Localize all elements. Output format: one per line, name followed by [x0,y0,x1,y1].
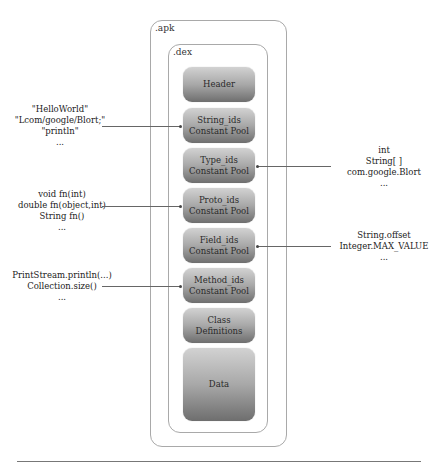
strings-arrowhead-icon [179,125,182,128]
block-label: Class [196,315,243,326]
block-sublabel: Constant Pool [189,206,249,217]
block-sublabel: Constant Pool [189,286,249,297]
field-ids-block: Field_idsConstant Pool [183,228,255,263]
method-ids-block: Method_idsConstant Pool [183,268,255,303]
annotation-line: ... [12,292,112,303]
block-sublabel: Definitions [196,326,243,337]
header-block: Header [183,67,255,102]
annotation-line: Integer.MAX_VALUE [334,241,434,252]
protos-arrowhead-icon [179,205,182,208]
types-arrowhead-icon [256,165,259,168]
class-definitions-block: ClassDefinitions [183,308,255,343]
annotation-line: "Lcom/google/Blort;" [10,115,110,126]
strings-arrow [102,126,181,127]
annotation-line: String fn() [12,211,112,222]
strings-annotation: "HelloWorld" "Lcom/google/Blort;" "print… [10,104,110,148]
annotation-line: ... [334,252,434,263]
annotation-line: ... [334,178,434,189]
block-label: Method_ids [189,275,249,286]
block-sublabel: Constant Pool [189,246,249,257]
fields-annotation: String.offset Integer.MAX_VALUE ... [334,230,434,263]
block-label: Header [203,79,235,90]
block-label: Type_ids [189,155,249,166]
fields-arrowhead-icon [256,245,259,248]
bottom-rule [17,461,421,462]
block-label: Proto_ids [189,195,249,206]
annotation-line: ... [12,222,112,233]
block-sublabel: Constant Pool [189,126,249,137]
fields-arrow [257,246,331,247]
annotation-line: "println" [10,126,110,137]
annotation-line: double fn(object,int) [12,200,112,211]
block-label: String_ids [189,115,249,126]
block-label: Field_ids [189,235,249,246]
apk-label: .apk [155,23,174,33]
protos-annotation: void fn(int) double fn(object,int) Strin… [12,189,112,233]
methods-annotation: PrintStream.println(...) Collection.size… [12,270,112,303]
annotation-line: int [334,145,434,156]
string-ids-block: String_idsConstant Pool [183,108,255,143]
data-block: Data [183,348,255,421]
dex-label: .dex [173,47,192,57]
annotation-line: void fn(int) [12,189,112,200]
annotation-line: "HelloWorld" [10,104,110,115]
annotation-line: PrintStream.println(...) [12,270,112,281]
annotation-line: ... [10,137,110,148]
types-annotation: int String[ ] com.google.Blort ... [334,145,434,189]
block-sublabel: Constant Pool [189,166,249,177]
type-ids-block: Type_idsConstant Pool [183,148,255,183]
annotation-line: String[ ] [334,156,434,167]
methods-arrowhead-icon [179,285,182,288]
proto-ids-block: Proto_idsConstant Pool [183,188,255,223]
protos-arrow [102,206,181,207]
methods-arrow [102,286,181,287]
block-label: Data [209,379,229,390]
types-arrow [257,166,331,167]
annotation-line: com.google.Blort [334,167,434,178]
annotation-line: Collection.size() [12,281,112,292]
annotation-line: String.offset [334,230,434,241]
